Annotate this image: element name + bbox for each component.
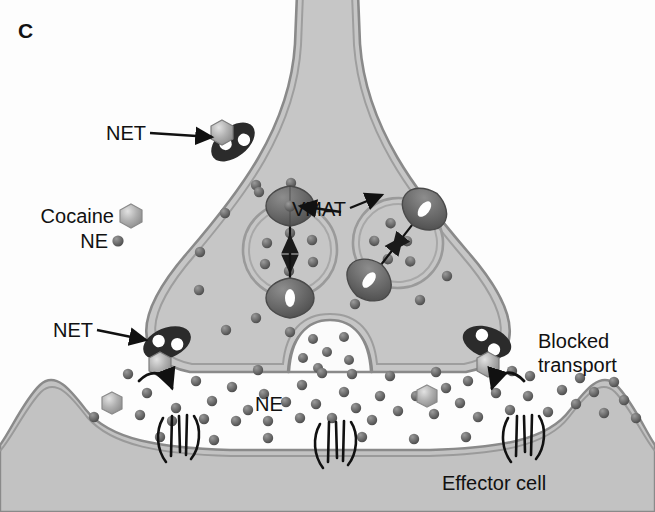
vmat-transporter-left-bottom[interactable]	[266, 278, 314, 318]
label-ne-cleft: NE	[255, 393, 283, 415]
cocaine-hexagon	[417, 385, 437, 407]
synapse-diagram: C NET Cocaine NE VMAT NET Blocked transp…	[0, 0, 655, 512]
legend-cocaine-glyph	[120, 204, 142, 228]
cocaine-hexagon	[477, 352, 499, 377]
legend-ne-glyph	[112, 235, 123, 246]
cocaine-bound-right	[477, 352, 499, 377]
cocaine-hexagon	[211, 120, 233, 145]
figure-canvas: C NET Cocaine NE VMAT NET Blocked transp…	[0, 0, 655, 512]
cocaine-bound-upper	[211, 120, 233, 145]
label-blocked-transport-line1: Blocked	[538, 330, 609, 352]
label-net-lower: NET	[53, 319, 93, 341]
legend-label-ne: NE	[80, 230, 108, 252]
label-vmat: VMAT	[292, 198, 346, 220]
label-effector-cell: Effector cell	[442, 472, 546, 494]
label-net-upper: NET	[106, 122, 146, 144]
legend-label-cocaine: Cocaine	[41, 205, 114, 227]
panel-label: C	[18, 19, 33, 42]
label-blocked-transport-line2: transport	[538, 354, 617, 376]
cocaine-hexagon	[102, 392, 122, 414]
